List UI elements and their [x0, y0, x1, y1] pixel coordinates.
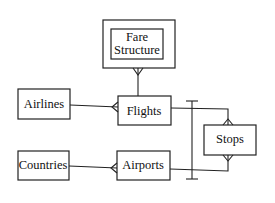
entity-airports[interactable]: Airports: [117, 151, 170, 180]
countries-label: Countries: [19, 158, 68, 172]
airlines-label: Airlines: [24, 97, 64, 111]
entity-airlines[interactable]: Airlines: [18, 89, 70, 119]
relationship-airlines-flights: [70, 102, 118, 112]
entity-countries[interactable]: Countries: [18, 151, 69, 180]
fare-structure-label-line1: Fare: [126, 30, 149, 44]
exclusive-arc-bar: [186, 101, 198, 179]
entity-stops[interactable]: Stops: [204, 125, 256, 155]
fare-structure-label-line2: Structure: [114, 43, 160, 57]
entity-fare-structure[interactable]: Fare Structure: [103, 20, 175, 68]
flights-label: Flights: [127, 104, 162, 118]
er-diagram: Fare Structure Airlines Flights Countrie…: [0, 0, 275, 203]
relationship-countries-airports: [69, 163, 117, 173]
relationship-airports-stops: [170, 155, 233, 171]
relationship-flights-fare-structure: [133, 68, 143, 96]
airports-label: Airports: [122, 158, 164, 172]
entity-flights[interactable]: Flights: [118, 96, 171, 125]
relationship-flights-stops: [171, 108, 233, 125]
stops-label: Stops: [216, 132, 244, 146]
